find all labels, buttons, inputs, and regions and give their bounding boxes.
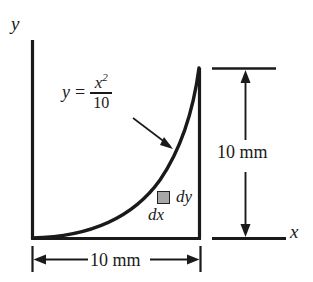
dy-label: dy <box>176 188 192 205</box>
equation-denominator: 10 <box>90 94 112 111</box>
parabola-curve <box>33 68 200 238</box>
equation-leader-arrow <box>133 118 173 149</box>
horizontal-dimension-label: 10 mm <box>90 251 141 269</box>
equation-numerator-exponent: 2 <box>102 71 108 83</box>
figure-drawing <box>0 0 313 282</box>
figure-container: y x y = x2 10 dy dx 10 mm 10 mm <box>0 0 313 282</box>
equation-numerator: x2 <box>92 74 111 92</box>
y-axis-label: y <box>11 14 19 33</box>
differential-area-element <box>157 191 170 204</box>
vertical-dimension-label: 10 mm <box>217 143 268 161</box>
equation-equals-sign: = <box>74 83 86 101</box>
equation-lhs: y <box>62 83 70 101</box>
equation-fraction: x2 10 <box>90 74 112 111</box>
x-axis-label: x <box>290 222 298 241</box>
curve-equation-label: y = x2 10 <box>62 74 112 111</box>
dx-label: dx <box>148 206 164 223</box>
